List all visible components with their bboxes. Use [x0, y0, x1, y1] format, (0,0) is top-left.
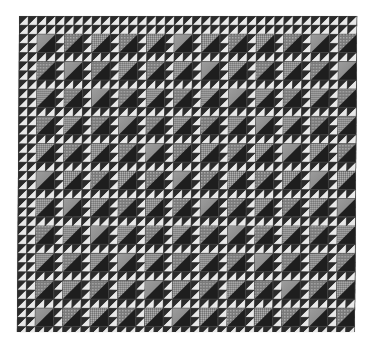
image-description: Black-and-white photograph of a pieced q… — [19, 16, 20, 17]
quilt-photo: Black-and-white photograph of a pieced q… — [17, 16, 357, 332]
quilt-pattern — [17, 16, 357, 332]
